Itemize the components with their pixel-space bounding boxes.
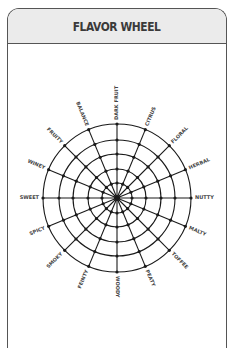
scale-point[interactable]	[173, 196, 176, 199]
scale-point[interactable]	[93, 143, 96, 146]
flavor-label: WINEY	[27, 158, 47, 171]
scale-point[interactable]	[130, 196, 133, 199]
scale-point[interactable]	[104, 223, 107, 226]
scale-point[interactable]	[189, 196, 192, 199]
scale-point[interactable]	[57, 196, 60, 199]
scale-point[interactable]	[89, 185, 92, 188]
scale-point[interactable]	[138, 143, 141, 146]
flavor-label: BALANCE	[75, 101, 91, 128]
scale-point[interactable]	[99, 237, 102, 240]
scale-point[interactable]	[129, 202, 132, 205]
scale-point[interactable]	[156, 237, 159, 240]
scale-point[interactable]	[74, 155, 77, 158]
scale-point[interactable]	[115, 211, 118, 214]
flavor-label: SPICY	[28, 224, 46, 236]
scale-point[interactable]	[47, 225, 50, 228]
scale-point[interactable]	[71, 196, 74, 199]
scale-point[interactable]	[100, 196, 103, 199]
scale-point[interactable]	[126, 170, 129, 173]
scale-point[interactable]	[62, 174, 65, 177]
scale-point[interactable]	[147, 165, 150, 168]
scale-point[interactable]	[115, 270, 118, 273]
scale-point[interactable]	[168, 144, 171, 147]
scale-point[interactable]	[95, 217, 98, 220]
wheel-spoke	[65, 198, 117, 250]
scale-point[interactable]	[147, 228, 150, 231]
scale-point[interactable]	[132, 237, 135, 240]
scale-point[interactable]	[115, 152, 118, 155]
flavor-label: SWEET	[20, 194, 40, 200]
scale-point[interactable]	[110, 183, 113, 186]
scale-point[interactable]	[75, 180, 78, 183]
scale-point[interactable]	[104, 170, 107, 173]
flavor-label: SMOKY	[45, 250, 64, 269]
flavor-label: MALTY	[188, 224, 207, 237]
scale-point[interactable]	[105, 207, 108, 210]
scale-point[interactable]	[184, 225, 187, 228]
scale-point[interactable]	[126, 207, 129, 210]
flavor-label: HERBAL	[188, 156, 212, 170]
scale-point[interactable]	[115, 167, 118, 170]
scale-point[interactable]	[87, 128, 90, 131]
scale-point[interactable]	[115, 122, 118, 125]
flavor-label: PEATY	[145, 269, 157, 288]
scale-point[interactable]	[95, 176, 98, 179]
scale-point[interactable]	[126, 186, 129, 189]
wheel-spoke	[117, 146, 169, 198]
scale-point[interactable]	[115, 225, 118, 228]
scale-point[interactable]	[115, 181, 118, 184]
flavor-label: WOODY	[115, 276, 121, 298]
scale-point[interactable]	[129, 191, 132, 194]
scale-point[interactable]	[102, 191, 105, 194]
scale-point[interactable]	[126, 223, 129, 226]
scale-point[interactable]	[168, 249, 171, 252]
wheel-spoke	[65, 146, 117, 198]
scale-point[interactable]	[115, 254, 118, 257]
flavor-label: FEINTY	[76, 268, 89, 289]
scale-point[interactable]	[159, 196, 162, 199]
flavor-label: FRUITY	[46, 126, 65, 145]
flavor-label: DARK FRUIT	[113, 85, 119, 120]
scale-point[interactable]	[169, 219, 172, 222]
scale-point[interactable]	[63, 249, 66, 252]
scale-point[interactable]	[47, 168, 50, 171]
scale-point[interactable]	[121, 183, 124, 186]
scale-point[interactable]	[144, 128, 147, 131]
scale-point[interactable]	[132, 156, 135, 159]
flavor-label: NUTTY	[195, 194, 214, 200]
scale-point[interactable]	[142, 207, 145, 210]
scale-point[interactable]	[75, 213, 78, 216]
scale-point[interactable]	[156, 213, 159, 216]
scale-point[interactable]	[156, 180, 159, 183]
scale-point[interactable]	[74, 237, 77, 240]
scale-point[interactable]	[110, 210, 113, 213]
scale-point[interactable]	[144, 265, 147, 268]
scale-point[interactable]	[62, 219, 65, 222]
wheel-center-dot	[114, 195, 120, 201]
scale-point[interactable]	[184, 168, 187, 171]
scale-point[interactable]	[136, 217, 139, 220]
scale-point[interactable]	[63, 144, 66, 147]
scale-point[interactable]	[84, 228, 87, 231]
scale-point[interactable]	[115, 138, 118, 141]
wheel-spoke	[117, 198, 169, 250]
scale-point[interactable]	[136, 176, 139, 179]
scale-point[interactable]	[105, 186, 108, 189]
scale-point[interactable]	[87, 265, 90, 268]
scale-point[interactable]	[115, 240, 118, 243]
flavor-label: TOFFEE	[170, 251, 190, 271]
scale-point[interactable]	[86, 196, 89, 199]
scale-point[interactable]	[84, 165, 87, 168]
scale-point[interactable]	[169, 174, 172, 177]
scale-point[interactable]	[144, 196, 147, 199]
scale-point[interactable]	[99, 156, 102, 159]
scale-point[interactable]	[121, 210, 124, 213]
scale-point[interactable]	[142, 185, 145, 188]
scale-point[interactable]	[138, 250, 141, 253]
scale-point[interactable]	[156, 155, 159, 158]
scale-point[interactable]	[41, 196, 44, 199]
flavor-label: FLORAL	[170, 124, 190, 144]
scale-point[interactable]	[89, 207, 92, 210]
scale-point[interactable]	[102, 202, 105, 205]
scale-point[interactable]	[93, 250, 96, 253]
